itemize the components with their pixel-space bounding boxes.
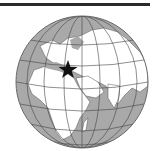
- locator-globe: [0, 0, 155, 151]
